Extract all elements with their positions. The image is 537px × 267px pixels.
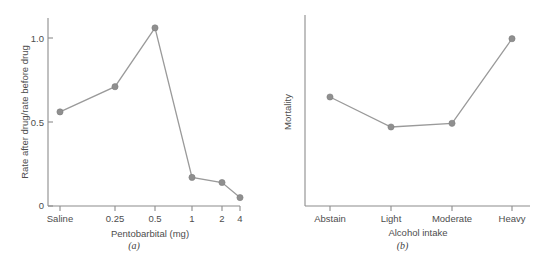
panel-a-chart: 0 0.5 1.0 Saline 0.25 0.5 1 2 4 Pentobar… <box>0 0 268 240</box>
data-point <box>219 179 225 185</box>
x-tick-label-2-b: Moderate <box>432 213 472 224</box>
data-point <box>112 84 118 90</box>
data-point <box>509 36 515 42</box>
data-point <box>57 109 63 115</box>
x-tick-label-4-a: 2 <box>219 213 224 224</box>
x-tick-label-1-a: 0.25 <box>106 213 125 224</box>
y-tick-label-1-a: 0.5 <box>31 117 44 128</box>
x-axis-title-a: Pentobarbital (mg) <box>111 228 189 239</box>
panel-b: Abstain Light Moderate Heavy Alcohol int… <box>268 0 537 267</box>
series-line-b <box>330 39 512 127</box>
cropped-caption-strip <box>0 262 537 267</box>
data-point <box>388 124 394 130</box>
panel-a-caption: (a) <box>0 240 268 251</box>
y-tick-label-2-a: 1.0 <box>31 33 44 44</box>
y-axis-title-a: Rate after drug/rate before drug <box>19 45 30 179</box>
x-tick-label-0-b: Abstain <box>314 213 346 224</box>
figure-container: 0 0.5 1.0 Saline 0.25 0.5 1 2 4 Pentobar… <box>0 0 537 267</box>
y-tick-label-0-a: 0 <box>39 200 44 211</box>
data-point <box>152 25 158 31</box>
data-point <box>449 120 455 126</box>
x-tick-label-1-b: Light <box>381 213 402 224</box>
y-axis-title-b: Mortality <box>282 94 293 130</box>
x-tick-label-3-b: Heavy <box>499 213 526 224</box>
series-markers-b <box>327 36 515 131</box>
data-point <box>327 94 333 100</box>
series-markers-a <box>57 25 243 201</box>
series-line-a <box>60 28 240 198</box>
x-tick-label-2-a: 0.5 <box>148 213 161 224</box>
data-point <box>189 174 195 180</box>
x-tick-label-5-a: 4 <box>237 213 242 224</box>
panel-b-chart: Abstain Light Moderate Heavy Alcohol int… <box>268 0 537 240</box>
x-axis-title-b: Alcohol intake <box>388 227 447 238</box>
panel-b-caption: (b) <box>268 240 537 251</box>
x-tick-label-0-a: Saline <box>47 213 73 224</box>
panel-a: 0 0.5 1.0 Saline 0.25 0.5 1 2 4 Pentobar… <box>0 0 268 267</box>
data-point <box>237 195 243 201</box>
x-tick-label-3-a: 1 <box>189 213 194 224</box>
